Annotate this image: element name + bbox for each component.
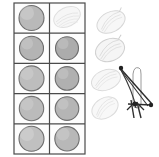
highlight-r5c2	[57, 128, 70, 141]
highlight-r3c1	[21, 67, 34, 80]
highlight-r5c1	[20, 127, 34, 141]
figure-container	[0, 0, 159, 157]
highlight-r4c2	[58, 99, 69, 110]
specimen-grid[interactable]	[14, 2, 85, 154]
scribble-node-right	[149, 103, 153, 107]
scribble-node-center	[133, 102, 138, 107]
figure-canvas	[0, 0, 159, 157]
highlight-r1c1	[20, 6, 34, 20]
highlight-r3c2	[58, 68, 69, 79]
highlight-r2c1	[21, 38, 33, 50]
scribble-node-top	[119, 66, 123, 70]
highlight-r2c2	[58, 38, 69, 49]
highlight-r4c1	[21, 98, 34, 111]
